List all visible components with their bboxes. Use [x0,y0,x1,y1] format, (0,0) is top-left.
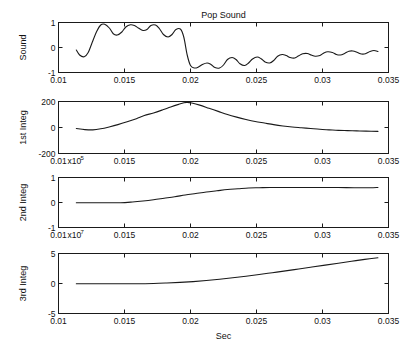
data-series-line [76,187,378,202]
data-series-line [76,24,378,68]
y-tick-label: 0 [51,198,56,208]
x-tick-label: 0.03 [314,230,331,240]
x-tick-label: 0.015 [114,316,136,326]
y-tick-label: 1 [51,173,56,183]
x-tick-label: 0.03 [314,316,331,326]
x-tick-label: 0.01 [50,156,67,166]
x-tick-label: 0.015 [114,75,136,85]
x-tick-label: 0.03 [314,156,331,166]
x-tick-label: 0.035 [378,156,400,166]
x-tick-label: 0.035 [378,75,400,85]
x-tick-label: 0.035 [378,316,400,326]
panel-1: -1010.010.0150.020.0250.030.035SoundPop … [18,10,399,86]
x-tick-label: 0.015 [114,156,136,166]
x-tick-label: 0.025 [246,230,268,240]
x-tick-label: 0.01 [50,230,67,240]
x-axis-exponent: x10 [68,230,82,240]
x-tick-label: 0.02 [182,230,199,240]
data-series-line [76,258,378,284]
y-tick-label: 0 [51,279,56,289]
x-tick-label: 0.01 [50,75,67,85]
figure-canvas: -1010.010.0150.020.0250.030.035SoundPop … [0,0,420,347]
x-axis-exponent-power: 5 [81,155,85,161]
multi-panel-chart: -1010.010.0150.020.0250.030.035SoundPop … [0,0,420,347]
chart-title: Pop Sound [201,10,246,20]
y-axis-title: 1st Integ [18,110,28,145]
x-tick-label: 0.02 [182,156,199,166]
x-tick-label: 0.02 [182,75,199,85]
y-tick-label: 0 [51,43,56,53]
y-tick-label: 0 [51,123,56,133]
y-tick-label: 1 [51,18,56,28]
panel-4: -5050.010.0150.020.0250.030.0353rd Integ… [18,249,399,341]
x-tick-label: 0.025 [246,156,268,166]
x-tick-label: 0.02 [182,316,199,326]
x-tick-label: 0.025 [246,75,268,85]
data-series-line [76,102,378,131]
x-tick-label: 0.035 [378,230,400,240]
y-axis-title: 3rd Integ [18,266,28,302]
y-tick-label: 5 [51,249,56,259]
x-tick-label: 0.01 [50,316,67,326]
panel-3: -1010.010.0150.020.0250.030.035x1072nd I… [18,173,399,241]
x-tick-label: 0.03 [314,75,331,85]
y-tick-label: 200 [41,97,55,107]
panel-2: -20002000.010.0150.020.0250.030.035x1051… [18,97,399,167]
x-tick-label: 0.015 [114,230,136,240]
x-axis-title: Sec [216,331,232,341]
x-tick-label: 0.025 [246,316,268,326]
y-axis-title: 2nd Integ [18,184,28,222]
x-axis-exponent-power: 7 [81,229,85,235]
y-axis-title: Sound [18,34,28,60]
x-axis-exponent: x10 [68,156,82,166]
